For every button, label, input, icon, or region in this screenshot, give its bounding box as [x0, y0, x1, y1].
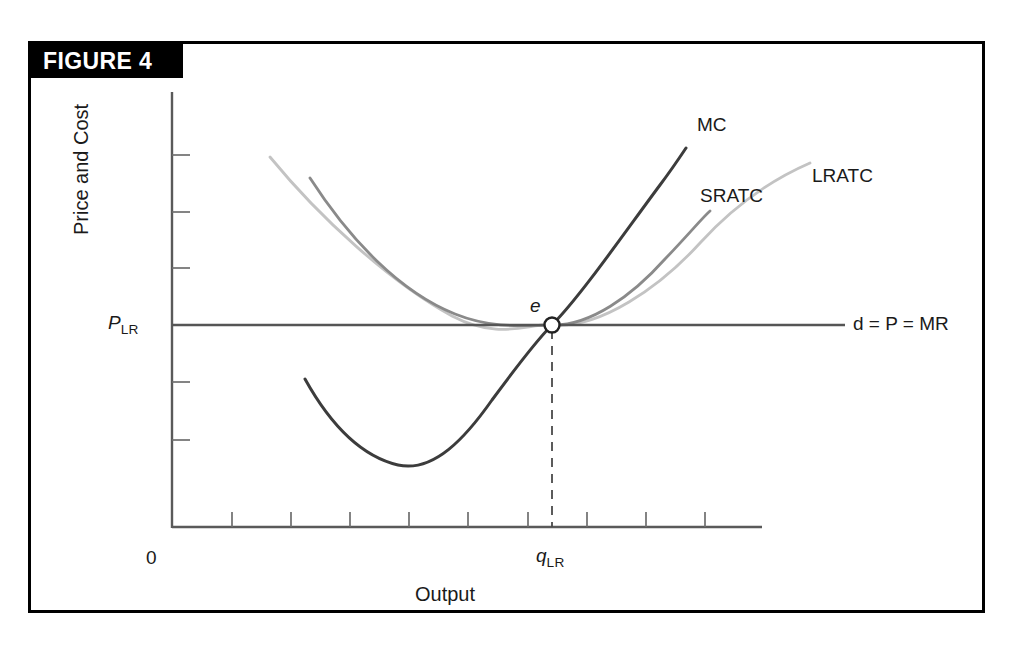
equilibrium-label: e: [530, 295, 541, 317]
origin-label: 0: [146, 547, 157, 569]
price-symbol: P: [108, 312, 121, 333]
quantity-subscript: LR: [547, 555, 565, 570]
y-axis-label: Price and Cost: [70, 104, 93, 235]
mc-curve: [305, 148, 686, 466]
quantity-lr-label: qLR: [536, 545, 564, 570]
demand-curve-label: d = P = MR: [853, 313, 949, 335]
lratc-label: LRATC: [812, 165, 873, 187]
x-axis-label: Output: [415, 583, 475, 606]
equilibrium-point-marker: [545, 318, 560, 333]
price-subscript: LR: [121, 322, 139, 337]
sratc-label: SRATC: [700, 185, 763, 207]
quantity-symbol: q: [536, 545, 547, 566]
mc-label: MC: [697, 114, 727, 136]
price-lr-label: PLR: [108, 312, 139, 337]
y-axis-ticks: [172, 155, 190, 440]
figure-page: FIGURE 4: [0, 0, 1023, 656]
x-axis-ticks: [232, 512, 705, 527]
